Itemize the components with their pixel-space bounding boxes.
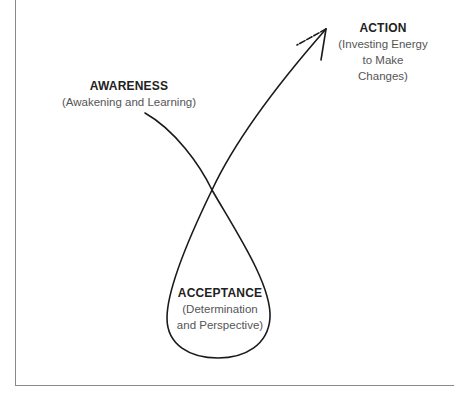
- stage-action-subtitle-3: Changes): [333, 68, 433, 84]
- stage-acceptance-title: ACCEPTANCE: [170, 285, 270, 301]
- stage-acceptance: ACCEPTANCE (Determination and Perspectiv…: [170, 285, 270, 333]
- stage-action: ACTION (Investing Energy to Make Changes…: [333, 20, 433, 84]
- stage-awareness-title: AWARENESS: [58, 78, 200, 94]
- stage-action-subtitle-1: (Investing Energy: [333, 36, 433, 52]
- stage-acceptance-subtitle-1: (Determination: [170, 301, 270, 317]
- stage-acceptance-subtitle-2: and Perspective): [170, 317, 270, 333]
- stage-action-subtitle-2: to Make: [333, 52, 433, 68]
- stage-awareness-subtitle: (Awakening and Learning): [58, 94, 200, 110]
- stage-awareness: AWARENESS (Awakening and Learning): [58, 78, 200, 110]
- stage-action-title: ACTION: [333, 20, 433, 36]
